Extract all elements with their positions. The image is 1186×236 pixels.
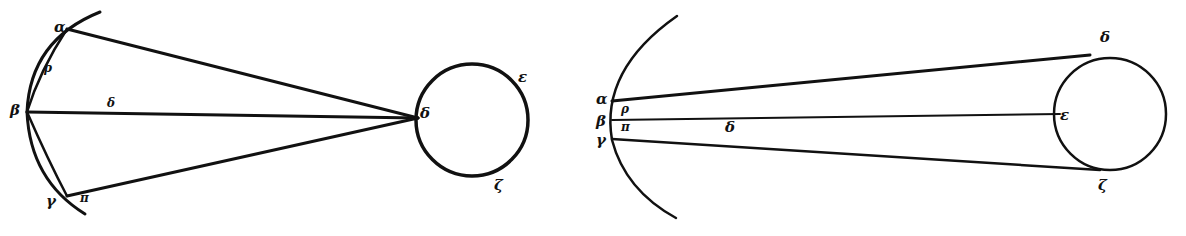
right-circle [1054,58,1166,170]
label-left-circle-zeta: ζ [494,178,503,193]
label-right-circle-zeta: ζ [1098,178,1107,193]
label-left-gamma: γ [46,194,56,209]
right-outer-arc [610,16,677,218]
left-top-ray [67,29,418,118]
right-ray-gamma [612,139,1100,170]
left-center-ray [27,112,418,118]
label-left-circle-delta: δ [420,106,430,121]
label-right-pi: π [621,121,630,133]
label-right-circle-epsilon: ε [1060,108,1069,123]
label-right-alpha: α [596,92,608,107]
right-ray-alpha [612,55,1090,101]
label-left-pi: π [80,192,89,204]
left-circle [416,64,528,176]
right-ray-beta [612,114,1060,120]
label-left-circle-epsilon: ε [518,70,527,85]
left-bottom-ray [67,118,418,196]
label-right-rho: ρ [621,103,629,115]
label-right-circle-delta: δ [1100,30,1110,45]
label-left-delta-line: δ [107,97,115,109]
label-right-gamma: γ [596,133,606,148]
diagram-canvas [0,0,1186,236]
label-left-beta: β [10,103,20,118]
label-right-beta: β [596,114,606,129]
label-left-rho: ρ [44,62,52,74]
label-left-alpha: α [54,20,66,35]
label-right-crossing-delta: δ [725,120,735,135]
left-lower-lens-inner [27,112,67,196]
